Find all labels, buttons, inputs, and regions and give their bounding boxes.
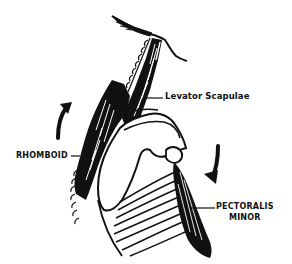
pectoralis-label-line1: PECTORALIS bbox=[216, 203, 274, 211]
scapula-muscles-illustration bbox=[0, 0, 292, 264]
upward-rotation-arrow bbox=[58, 102, 72, 138]
pectoralis-minor-label: PECTORALIS MINOR bbox=[216, 203, 274, 222]
pectoralis-minor-muscle bbox=[173, 162, 211, 258]
pectoralis-label-line2: MINOR bbox=[216, 214, 274, 222]
rhomboid-label: RHOMBOID bbox=[16, 152, 68, 160]
anatomy-diagram: Levator Scapulae RHOMBOID PECTORALIS MIN… bbox=[0, 0, 292, 264]
downward-rotation-arrow bbox=[204, 146, 218, 184]
levator-scapulae-label: Levator Scapulae bbox=[165, 92, 250, 101]
